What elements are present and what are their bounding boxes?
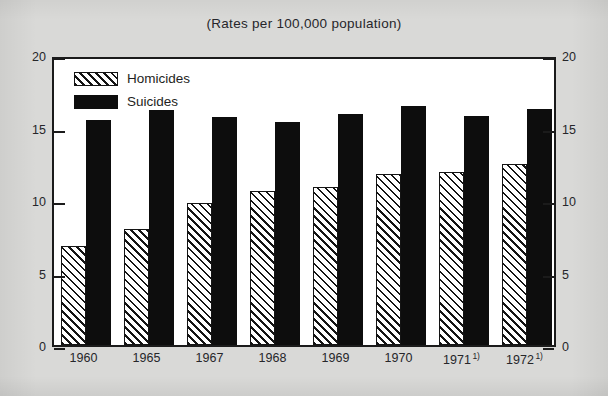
y-tick-label-right: 10	[562, 196, 576, 209]
legend-item-homicides: Homicides	[74, 69, 190, 89]
bar-group-1967	[187, 59, 237, 345]
x-tick-label-1971: 19711)	[443, 351, 480, 367]
bar-homicides-1968	[250, 191, 275, 345]
x-tick-label-1968: 1968	[259, 351, 287, 365]
legend-item-suicides: Suicides	[74, 92, 190, 112]
plot-frame: HomicidesSuicides	[52, 57, 556, 347]
bar-homicides-1965	[124, 229, 149, 345]
bar-group-1968	[250, 59, 300, 345]
footnote-marker: 1)	[472, 351, 480, 361]
x-tick-label-1969: 1969	[322, 351, 350, 365]
bar-suicides-1971	[464, 116, 489, 345]
y-axis-left: 05101520	[14, 57, 46, 347]
bar-suicides-1969	[338, 114, 363, 345]
y-tick-label-right: 20	[562, 51, 576, 64]
bar-homicides-1969	[313, 187, 338, 345]
y-tick-right-20	[543, 58, 554, 60]
y-tick-label-right: 15	[562, 124, 576, 137]
bar-group-1970	[376, 59, 426, 345]
bar-homicides-1970	[376, 174, 401, 345]
y-tick-left-10	[54, 203, 65, 205]
y-tick-label-right: 0	[562, 341, 569, 354]
y-tick-label-left: 20	[32, 51, 46, 64]
bar-suicides-1968	[275, 122, 300, 345]
bar-homicides-1972	[502, 164, 527, 345]
y-axis-right: 05101520	[562, 57, 594, 347]
bar-homicides-1960	[61, 246, 86, 345]
bar-homicides-1971	[439, 172, 464, 345]
x-tick-label-1960: 1960	[70, 351, 98, 365]
y-tick-left-5	[54, 276, 65, 278]
legend-swatch-suicides	[74, 95, 118, 109]
y-tick-label-left: 10	[32, 196, 46, 209]
bar-group-1972	[502, 59, 552, 345]
bar-suicides-1970	[401, 106, 426, 345]
y-tick-right-5	[543, 276, 554, 278]
bar-group-1971	[439, 59, 489, 345]
bar-suicides-1972	[527, 109, 552, 345]
bar-homicides-1967	[187, 203, 212, 345]
bar-group-1969	[313, 59, 363, 345]
x-axis-labels: 19601965196719681969197019711)19721)	[52, 351, 556, 375]
y-tick-label-left: 5	[39, 269, 46, 282]
y-tick-label-left: 15	[32, 124, 46, 137]
y-tick-left-15	[54, 131, 65, 133]
bar-suicides-1965	[149, 110, 174, 345]
y-tick-right-0	[543, 348, 554, 350]
legend-swatch-homicides	[74, 72, 118, 86]
y-tick-right-15	[543, 131, 554, 133]
footnote-marker: 1)	[535, 351, 543, 361]
y-tick-label-left: 0	[39, 341, 46, 354]
bar-suicides-1967	[212, 117, 237, 345]
chart-legend: HomicidesSuicides	[74, 69, 190, 115]
legend-label: Homicides	[127, 72, 190, 86]
x-tick-label-1972: 19721)	[506, 351, 543, 367]
x-tick-label-1970: 1970	[385, 351, 413, 365]
y-tick-right-10	[543, 203, 554, 205]
y-tick-left-0	[54, 348, 65, 350]
y-tick-label-right: 5	[562, 269, 569, 282]
chart-figure: (Rates per 100,000 population) 05101520 …	[0, 0, 608, 396]
chart-title: (Rates per 100,000 population)	[0, 16, 608, 31]
legend-label: Suicides	[127, 95, 178, 109]
x-tick-label-1967: 1967	[196, 351, 224, 365]
bar-suicides-1960	[86, 120, 111, 345]
y-tick-left-20	[54, 58, 65, 60]
x-tick-label-1965: 1965	[133, 351, 161, 365]
